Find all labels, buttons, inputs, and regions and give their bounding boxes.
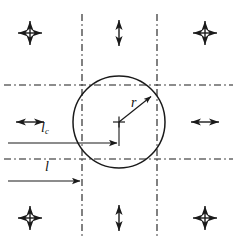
bottom-left-cross-arrow (18, 206, 42, 230)
characteristic-length-label: lc (41, 121, 49, 136)
technical-figure: r lc l (0, 0, 237, 248)
lc-subscript: c (45, 126, 49, 136)
radius-label: r (131, 96, 136, 110)
length-label: l (45, 160, 49, 174)
bottom-right-cross-arrow (193, 206, 217, 230)
figure-canvas (0, 0, 237, 248)
top-right-cross-arrow (193, 21, 217, 45)
top-left-cross-arrow (18, 21, 42, 45)
